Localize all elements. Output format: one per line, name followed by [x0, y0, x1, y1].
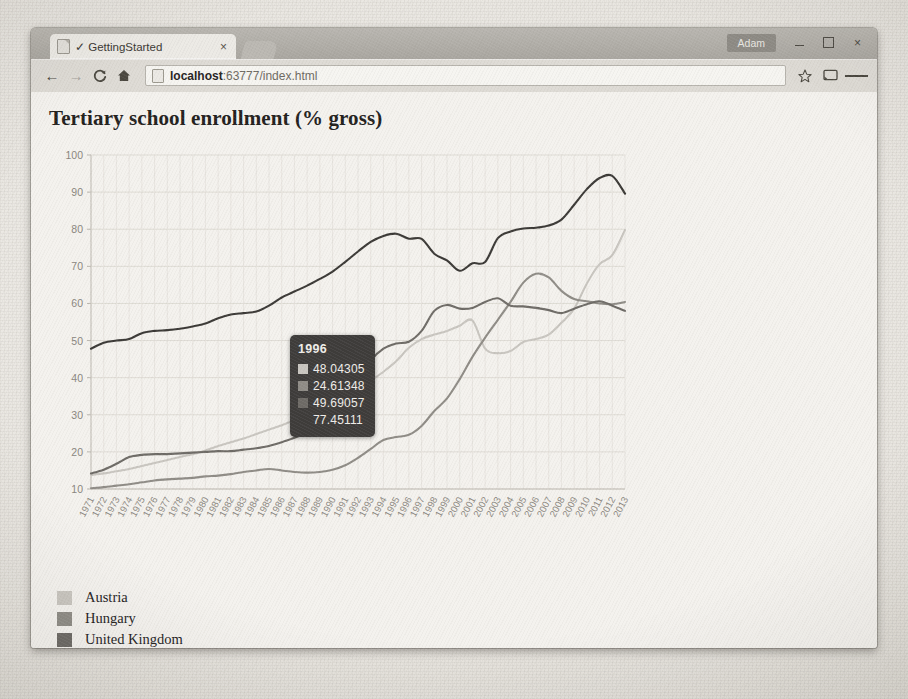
chart-gridlines [91, 155, 625, 489]
url-path: :63777/index.html [223, 69, 318, 83]
tooltip-swatch-icon [298, 415, 308, 425]
url-host: localhost [170, 69, 223, 83]
menu-line [845, 75, 853, 77]
home-button[interactable] [112, 64, 136, 88]
legend-item[interactable]: Hungary [57, 608, 183, 629]
y-axis-tick-label: 10 [71, 483, 83, 495]
tooltip-swatch-icon [298, 364, 308, 374]
user-profile-chip[interactable]: Adam [727, 34, 776, 52]
y-axis-tick-label: 30 [71, 409, 83, 421]
tab-close-icon[interactable]: × [218, 41, 229, 53]
x-axis: 1971197219731974197519761977197819791980… [77, 489, 631, 519]
legend-item[interactable]: United Kingdom [57, 629, 183, 648]
legend-label: Austria [85, 589, 128, 606]
page-viewport: Tertiary school enrollment (% gross) 102… [31, 92, 877, 648]
browser-tab-gettingstarted[interactable]: ✓ GettingStarted × [50, 34, 236, 59]
tooltip-value: 77.45111 [313, 413, 363, 427]
y-axis: 102030405060708090100 [65, 149, 91, 495]
legend-label: United Kingdom [85, 631, 183, 648]
chart-legend: AustriaHungaryUnited KingdomUnited State… [57, 587, 183, 648]
browser-toolbar: ← → localhost:63777/index.html [31, 59, 877, 92]
tooltip-value: 49.69057 [313, 396, 365, 410]
bookmark-star-button[interactable] [793, 64, 816, 87]
browser-menu-button[interactable] [845, 64, 868, 87]
cast-button[interactable] [819, 64, 842, 87]
tooltip-value: 24.61348 [313, 379, 365, 393]
tooltip-swatch-icon [298, 381, 308, 391]
tooltip-row: 77.45111 [298, 411, 365, 428]
legend-item[interactable]: Austria [57, 587, 183, 608]
address-bar[interactable]: localhost:63777/index.html [145, 65, 786, 86]
y-axis-tick-label: 70 [71, 260, 83, 272]
tab-title: ✓ GettingStarted [75, 40, 218, 54]
browser-titlebar: ✓ GettingStarted × Adam × [31, 28, 877, 59]
star-icon [798, 69, 812, 83]
cast-icon [823, 69, 838, 82]
tooltip-row: 49.69057 [298, 394, 365, 411]
minimize-button[interactable] [786, 32, 813, 53]
tooltip-value: 48.04305 [313, 362, 365, 376]
legend-swatch-icon [57, 633, 72, 647]
tooltip-row: 24.61348 [298, 377, 365, 394]
legend-swatch-icon [57, 612, 72, 626]
y-axis-tick-label: 100 [65, 149, 83, 161]
tooltip-value-rows: 48.0430524.6134849.6905777.45111 [298, 360, 365, 428]
legend-swatch-icon [57, 591, 72, 605]
toolbar-right-icons [793, 64, 868, 87]
new-tab-button[interactable] [240, 41, 278, 59]
page-document-icon [152, 69, 164, 83]
y-axis-tick-label: 50 [71, 335, 83, 347]
tooltip-year: 1996 [298, 342, 365, 356]
tooltip-swatch-icon [298, 398, 308, 408]
forward-button[interactable]: → [64, 64, 88, 88]
y-axis-tick-label: 90 [71, 186, 83, 198]
home-icon [117, 69, 131, 82]
close-button[interactable]: × [844, 32, 871, 53]
reload-button[interactable] [88, 64, 112, 88]
reload-icon [93, 69, 107, 83]
browser-window: ✓ GettingStarted × Adam × ← → [31, 28, 877, 648]
menu-line [853, 75, 861, 77]
y-axis-tick-label: 60 [71, 297, 83, 309]
maximize-button[interactable] [815, 32, 842, 53]
page-title: Tertiary school enrollment (% gross) [49, 106, 382, 131]
y-axis-tick-label: 40 [71, 372, 83, 384]
menu-line [860, 75, 868, 77]
tooltip-row: 48.04305 [298, 360, 365, 377]
back-button[interactable]: ← [40, 64, 64, 88]
y-axis-tick-label: 80 [71, 223, 83, 235]
page-favicon-icon [57, 39, 70, 54]
y-axis-tick-label: 20 [71, 446, 83, 458]
legend-label: Hungary [85, 610, 136, 627]
url-text: localhost:63777/index.html [170, 69, 317, 83]
window-controls: Adam × [727, 31, 871, 54]
chart-tooltip: 1996 48.0430524.6134849.6905777.45111 [290, 335, 375, 437]
